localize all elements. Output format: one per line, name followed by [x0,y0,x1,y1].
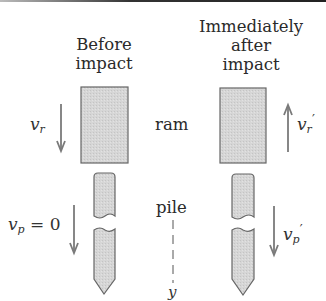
pile-after-upper [232,174,254,219]
pile-before-lower [94,228,115,294]
label-vp-zero: vp = 0 [8,214,61,236]
label-y-axis: y [168,283,176,301]
diagram-graphics [0,0,326,301]
label-pile: pile [156,198,187,217]
ram-after [220,88,266,163]
label-vr: vr [30,114,45,136]
pile-before-upper [94,173,115,218]
ram-before [81,87,128,163]
pile-after-lower [232,228,254,295]
label-vp-prime: vp′ [283,222,303,246]
label-ram: ram [155,115,188,134]
label-vr-prime: vr′ [297,112,315,136]
